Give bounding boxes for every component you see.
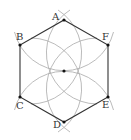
point-f [106,43,109,46]
label-a: A [52,12,59,22]
point-c [18,95,21,98]
point-d [62,120,65,123]
arc-centered-at-d [15,71,114,110]
label-c: C [16,101,24,111]
label-f: F [102,32,109,42]
point-b [18,43,21,46]
points [18,18,109,123]
diagram-canvas [0,0,131,140]
label-b: B [16,32,23,42]
point-a [62,18,65,21]
label-d: D [53,120,61,130]
label-e: E [102,100,109,110]
arc-centered-at-a [15,32,114,71]
point-center [62,69,65,72]
hexagon-rosette-diagram: A B C D E F [0,0,131,140]
